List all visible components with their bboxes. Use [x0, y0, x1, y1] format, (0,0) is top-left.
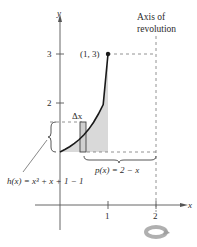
h-brace — [48, 122, 56, 152]
point-label: (1, 3) — [80, 49, 100, 59]
y-axis-label: y — [56, 8, 61, 18]
p-function-label: p(x) = 2 − x — [94, 165, 139, 175]
y-tick-3: 3 — [47, 49, 52, 59]
x-axis-arrow-icon — [180, 203, 188, 207]
x-axis-label: x — [187, 200, 192, 210]
delta-x-label: Δx — [72, 111, 83, 121]
axis-of-revolution-label-1: Axis of — [137, 12, 166, 22]
rotation-icon — [146, 227, 170, 237]
x-tick-1: 1 — [105, 211, 110, 221]
diagram-canvas: y x 3 2 1 2 Axis of revolution (1, 3) Δx… — [0, 0, 197, 247]
axis-of-revolution-label-2: revolution — [137, 24, 176, 34]
endpoint-dot — [106, 52, 110, 56]
y-tick-2: 2 — [47, 98, 52, 108]
h-leader-line — [23, 140, 47, 172]
h-function-label: h(x) = x³ + x + 1 − 1 — [7, 176, 83, 186]
x-tick-2: 2 — [153, 211, 158, 221]
p-brace — [84, 156, 156, 163]
